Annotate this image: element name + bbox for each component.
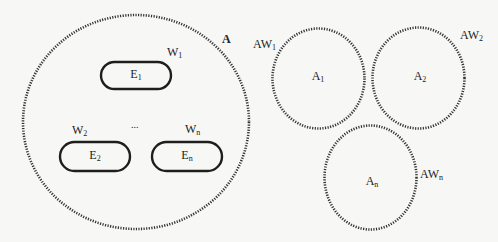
weight-awn-sub: n: [439, 173, 443, 182]
weight-wn-label: Wn: [185, 123, 200, 139]
entity-e1-sub: 1: [138, 73, 142, 82]
outer-region-label-text: A: [222, 32, 231, 46]
sub-region-a1-text: A: [312, 69, 321, 83]
weight-w2-sub: 2: [83, 129, 87, 138]
weight-aw1-text: AW: [253, 37, 272, 51]
sub-region-an-label: An: [366, 175, 379, 191]
diagram-canvas: [0, 0, 498, 242]
weight-w2-label: W2: [72, 124, 87, 140]
weight-w1-sub: 1: [178, 51, 182, 60]
sub-region-an-text: A: [366, 174, 375, 188]
sub-region-a1-label: A1: [312, 70, 325, 86]
weight-w1-label: W1: [167, 46, 182, 62]
weight-awn-label: AWn: [420, 168, 443, 184]
weight-aw1-sub: 1: [272, 43, 276, 52]
sub-region-a2-sub: 2: [422, 75, 426, 84]
entity-e2-label: E2: [89, 149, 100, 165]
outer-region-label: A: [222, 33, 231, 45]
sub-region-a2-label: A2: [414, 70, 427, 86]
weight-awn-text: AW: [420, 167, 439, 181]
weight-wn-sub: n: [196, 128, 200, 137]
sub-region-a2-text: A: [414, 69, 423, 83]
sub-region-an-sub: n: [374, 180, 378, 189]
sub-region-a1-sub: 1: [320, 75, 324, 84]
ellipsis-label: ...: [131, 119, 139, 131]
entity-e2-sub: 2: [97, 154, 101, 163]
weight-aw2-label: AW2: [460, 29, 483, 45]
weight-aw2-text: AW: [460, 28, 479, 42]
weight-aw2-sub: 2: [479, 34, 483, 43]
weight-aw1-label: AW1: [253, 38, 276, 54]
weight-w1-text: W: [167, 45, 178, 59]
entity-en-label: En: [181, 149, 192, 165]
weight-w2-text: W: [72, 123, 83, 137]
weight-wn-text: W: [185, 122, 196, 136]
entity-en-sub: n: [189, 154, 193, 163]
entity-e1-label: E1: [130, 68, 141, 84]
